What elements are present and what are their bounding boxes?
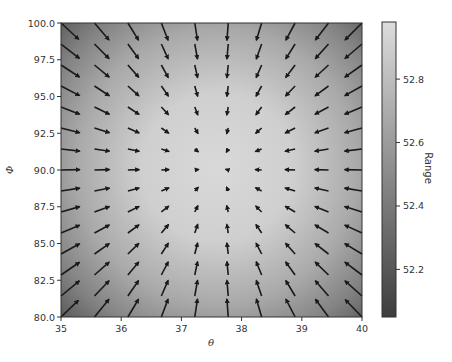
quiver-arrow (226, 169, 229, 170)
colorbar-tick-label: 52.6 (403, 137, 424, 148)
y-tick-label: 80.0 (34, 312, 55, 323)
y-tick-label: 97.5 (34, 54, 55, 65)
x-tick-label: 38 (236, 323, 248, 334)
colorbar-tick-label: 52.4 (403, 200, 424, 211)
x-tick-label: 40 (356, 323, 368, 334)
y-tick-label: 82.5 (34, 275, 55, 286)
colorbar-label: Range (423, 152, 434, 184)
y-axis-label: Φ (4, 166, 15, 174)
quiver-chart: 353637383940 80.082.585.087.590.092.595.… (0, 0, 452, 362)
y-axis: 80.082.585.087.590.092.595.097.5100.0 (28, 18, 61, 323)
colorbar-ticks: 52.252.452.652.8 (396, 74, 424, 275)
y-tick-label: 87.5 (34, 201, 55, 212)
x-tick-label: 39 (296, 323, 308, 334)
y-tick-label: 95.0 (34, 91, 55, 102)
x-axis: 353637383940 (55, 317, 368, 334)
x-tick-label: 35 (55, 323, 67, 334)
x-tick-label: 37 (175, 323, 187, 334)
colorbar-tick-label: 52.2 (403, 264, 424, 275)
colorbar (382, 22, 396, 317)
x-axis-label: θ (208, 337, 214, 348)
colorbar-tick-label: 52.8 (403, 74, 424, 85)
y-tick-label: 85.0 (34, 238, 55, 249)
x-tick-label: 36 (115, 323, 127, 334)
y-tick-label: 90.0 (34, 165, 55, 176)
y-tick-label: 100.0 (28, 18, 55, 29)
quiver-arrow (195, 169, 199, 170)
y-tick-label: 92.5 (34, 128, 55, 139)
